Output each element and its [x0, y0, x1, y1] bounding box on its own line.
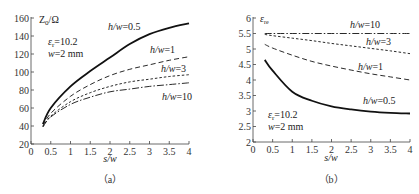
y-tick-label: 20	[19, 139, 29, 150]
y-tick-label: 40	[19, 121, 29, 132]
x-tick-label: 2.5	[345, 144, 358, 155]
x-tick-label: 3.5	[163, 146, 176, 157]
x-tick-label: 0.5	[45, 146, 58, 157]
x-tick-label: 0	[29, 146, 34, 157]
y-tick-label: 160	[14, 13, 29, 24]
y-tick-label: 6	[246, 13, 251, 24]
chart-a: 20406080100120140160 00.511.522.533.54 Z…	[14, 13, 192, 186]
x-tick-label: 0.5	[266, 144, 279, 155]
y-tick-label: 3	[246, 106, 251, 117]
chart-a-width-annotation: w=2 mm	[48, 48, 84, 59]
chart-b-label-hw1: h/w=1	[358, 61, 383, 72]
x-tick-label: 0	[251, 144, 256, 155]
y-tick-label: 60	[19, 103, 29, 114]
x-tick-label: 3	[147, 146, 152, 157]
x-tick-label: 1.5	[84, 146, 97, 157]
chart-a-label-hw10: h/w=10	[162, 91, 192, 102]
x-tick-label: 1	[68, 146, 73, 157]
x-tick-label: 1	[290, 144, 295, 155]
chart-b-caption: （b）	[319, 174, 344, 185]
y-tick-label: 3.5	[239, 90, 252, 101]
chart-b-label-hw10: h/w=10	[350, 19, 380, 30]
y-tick-label: 2.5	[239, 121, 252, 132]
chart-b-width-annotation: w=2 mm	[268, 121, 304, 132]
chart-a-label-hw1: h/w=1	[150, 44, 175, 55]
figure: 20406080100120140160 00.511.522.533.54 Z…	[0, 0, 419, 194]
curve-h-w-1	[265, 44, 410, 80]
chart-a-label-hw05: h/w=0.5	[108, 21, 141, 32]
x-tick-label: 1.5	[306, 144, 319, 155]
chart-b-y-label: εre	[260, 13, 269, 25]
x-tick-label: 2.5	[124, 146, 137, 157]
chart-b: 22.533.544.555.56 00.511.522.533.54 εre …	[239, 13, 413, 186]
chart-b-label-hw3: h/w=3	[366, 36, 391, 47]
x-tick-label: 3.5	[384, 144, 397, 155]
y-tick-label: 100	[14, 67, 29, 78]
y-tick-label: 5.5	[239, 28, 252, 39]
y-tick-label: 120	[14, 49, 29, 60]
y-tick-label: 5	[246, 44, 251, 55]
y-tick-label: 4	[246, 75, 251, 86]
y-tick-label: 80	[19, 85, 29, 96]
curve-h-w-10	[43, 83, 189, 127]
chart-a-caption: （a）	[98, 174, 122, 185]
x-tick-label: 3	[368, 144, 373, 155]
chart-b-label-hw05: h/w=0.5	[363, 95, 396, 106]
x-tick-label: 4	[187, 146, 192, 157]
chart-a-label-hw3: h/w=3	[161, 63, 186, 74]
chart-b-x-label: s/w	[324, 152, 338, 163]
x-tick-label: 4	[408, 144, 413, 155]
y-tick-label: 4.5	[239, 59, 252, 70]
chart-a-y-label: Z0/Ω	[39, 14, 59, 27]
y-tick-label: 140	[14, 31, 29, 42]
chart-a-x-label: s/w	[103, 153, 117, 164]
